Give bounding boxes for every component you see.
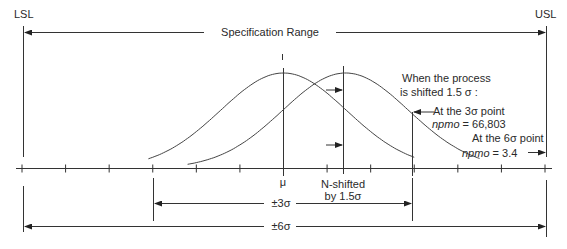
at-6sigma-label: At the 6σ point: [472, 132, 544, 144]
npmo-label: npmo: [432, 118, 460, 130]
centered-distribution-curve: [148, 73, 414, 159]
n-shifted-label-1: N-shifted: [321, 178, 365, 190]
at-3sigma-npmo: npmo = 66,803: [432, 118, 506, 130]
n-shifted-label-2: by 1.5σ: [325, 190, 362, 202]
npmo-value: = 3.4: [490, 147, 518, 159]
at-3sigma-label: At the 3σ point: [433, 105, 505, 117]
pm3-label: ±3σ: [272, 197, 291, 209]
pm6-label: ±6σ: [272, 220, 291, 232]
shift-note-line1: When the process: [402, 72, 491, 84]
shift-note-line2: is shifted 1.5 σ :: [400, 86, 478, 98]
at-6sigma-npmo: npmo = 3.4: [462, 147, 517, 159]
six-sigma-diagram: LSL USL Specification Range μ N-shifted …: [0, 0, 567, 249]
npmo-label: npmo: [462, 147, 490, 159]
usl-label: USL: [535, 8, 556, 20]
mu-label: μ: [280, 176, 286, 188]
npmo-value: = 66,803: [460, 118, 506, 130]
spec-range-label: Specification Range: [221, 26, 319, 38]
lsl-label: LSL: [14, 8, 34, 20]
